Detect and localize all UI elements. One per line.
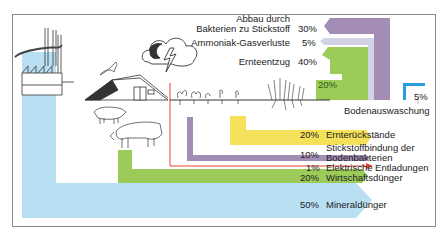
label-abbau-line2: Bakterien zu Stickstoff bbox=[170, 24, 290, 34]
pct-wirtschaftsduenger: 20% bbox=[300, 173, 319, 183]
label-ernterueckstaende: Ernterückstände bbox=[326, 130, 395, 140]
farm-icon bbox=[85, 75, 168, 100]
label-wirtschaftsduenger: Wirtschaftsdünger bbox=[326, 173, 403, 183]
pct-mineralduenger: 50% bbox=[300, 200, 319, 210]
cow-icon bbox=[110, 122, 162, 148]
pct-ammoniak: 5% bbox=[302, 38, 316, 48]
pct-bodenauswaschung: 5% bbox=[414, 92, 428, 102]
pct-abbau: 30% bbox=[298, 24, 317, 34]
label-ernteentzug: Ernteentzug bbox=[210, 57, 290, 67]
label-mineralduenger: Mineraldünger bbox=[326, 200, 387, 210]
crops-icon bbox=[177, 90, 238, 105]
label-ammoniak: Ammoniak-Gasverluste bbox=[170, 38, 290, 48]
label-bodenauswaschung: Bodenauswaschung bbox=[344, 106, 430, 116]
pct-ernte-20: 20% bbox=[318, 80, 337, 90]
pct-ernterueckstaende: 20% bbox=[300, 130, 319, 140]
rooster-icon bbox=[100, 62, 117, 75]
grain-icon bbox=[268, 78, 304, 110]
pct-ernteentzug: 40% bbox=[298, 57, 317, 67]
pig-icon bbox=[94, 107, 126, 124]
pct-bodenbakterien: 10% bbox=[300, 150, 319, 160]
